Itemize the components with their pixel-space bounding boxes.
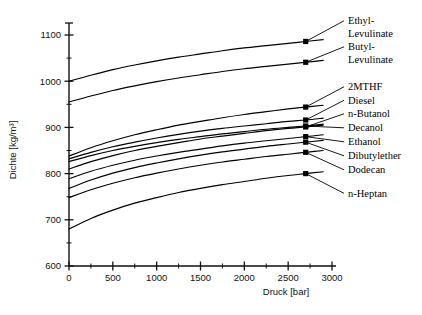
x-tick-label: 1000 <box>146 272 167 283</box>
series-label-ethyl-levulinate: Levulinate <box>348 28 393 39</box>
series-labels: Ethyl-LevulinateButyl-Levulinate2MTHFDie… <box>348 15 402 199</box>
chart-page: 60070080090010001100 0500100015002000250… <box>0 0 422 315</box>
leader-line-diesel <box>306 100 344 120</box>
x-tick-label: 2000 <box>234 272 255 283</box>
y-axis-title: Dichte [kg/m³] <box>7 121 18 180</box>
leader-line-dibutylether <box>306 142 344 156</box>
series-label-2mthf: 2MTHF <box>348 81 383 92</box>
leader-lines <box>306 21 344 194</box>
series-label-ethyl-levulinate: Ethyl- <box>348 15 375 26</box>
series-curve-n-heptan <box>69 172 323 229</box>
x-axis-title: Druck [bar] <box>263 286 309 297</box>
series-label-butyl-levulinate: Butyl- <box>348 41 375 52</box>
y-tick-label: 1000 <box>40 76 61 87</box>
data-point-marker <box>303 60 308 65</box>
series-label-butyl-levulinate: Levulinate <box>348 54 393 65</box>
series-label-dodecan: Dodecan <box>348 164 386 175</box>
x-tick-labels: 050010001500200025003000 <box>66 272 342 283</box>
leader-line-n-butanol <box>306 114 344 127</box>
density-pressure-chart: 60070080090010001100 0500100015002000250… <box>0 0 422 315</box>
series-label-n-butanol: n-Butanol <box>348 108 390 119</box>
axes-group <box>65 23 337 271</box>
series-curve-butyl-levulinate <box>69 60 323 102</box>
y-tick-labels: 60070080090010001100 <box>40 29 61 271</box>
series-label-decanol: Decanol <box>348 122 383 133</box>
leader-line-butyl-levulinate <box>306 47 344 62</box>
series-curves <box>69 40 323 229</box>
y-tick-label: 700 <box>45 214 61 225</box>
x-tick-label: 0 <box>66 272 71 283</box>
series-curve-dibutylether <box>69 140 323 188</box>
series-label-diesel: Diesel <box>348 95 375 106</box>
leader-line-n-heptan <box>306 174 344 194</box>
series-label-n-heptan: n-Heptan <box>348 188 388 199</box>
leader-line-2mthf <box>306 87 344 107</box>
x-tick-label: 2500 <box>278 272 299 283</box>
x-tick-label: 3000 <box>321 272 342 283</box>
y-tick-label: 800 <box>45 168 61 179</box>
series-label-dibutylether: Dibutylether <box>348 150 402 161</box>
y-tick-label: 900 <box>45 122 61 133</box>
y-tick-label: 600 <box>45 260 61 271</box>
x-tick-label: 1500 <box>190 272 211 283</box>
y-tick-label: 1100 <box>41 29 61 40</box>
series-label-ethanol: Ethanol <box>348 136 381 147</box>
leader-line-dodecan <box>306 152 344 169</box>
series-markers <box>303 39 308 176</box>
x-tick-label: 500 <box>105 272 121 283</box>
leader-line-ethyl-levulinate <box>306 21 344 42</box>
